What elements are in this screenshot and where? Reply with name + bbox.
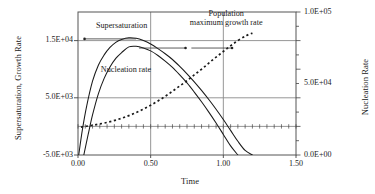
x-axis-tick-label: 0.00	[55, 159, 101, 168]
y-axis-right-tick-label: 1.0E+05	[304, 7, 354, 16]
x-axis-tick-label: 1.50	[273, 159, 319, 168]
chart-annotation: Populationmaximum growth rate	[166, 10, 286, 28]
annotation-line: Supersaturation	[62, 22, 182, 31]
axis-ticks	[74, 12, 301, 158]
y-axis-right-title: Nucleation Rate	[360, 27, 370, 147]
series-curve	[84, 46, 238, 155]
x-axis-tick-label: 1.00	[200, 159, 246, 168]
y-axis-left-tick-label: 1.5E+04	[20, 35, 73, 44]
y-axis-right-tick-label: 0.0E+00	[304, 150, 354, 159]
x-axis-title: Time	[150, 176, 230, 186]
y-axis-left-tick-label: -5.0E+03	[20, 150, 73, 159]
annotation-line: maximum growth rate	[166, 19, 286, 28]
series-curve	[79, 38, 253, 155]
x-axis-tick-label: 0.50	[128, 159, 174, 168]
annotation-line: Nucleation rate	[66, 66, 186, 75]
chart-annotation: Nucleation rate	[66, 66, 186, 75]
series-curve	[81, 33, 252, 127]
annotation-leaders	[83, 38, 233, 50]
chart-annotation: Supersaturation	[62, 22, 182, 31]
y-axis-left-tick-label: 5.0E+03	[20, 92, 73, 101]
y-axis-right-tick-label: 5.0E+04	[304, 78, 354, 87]
data-series	[79, 33, 253, 155]
